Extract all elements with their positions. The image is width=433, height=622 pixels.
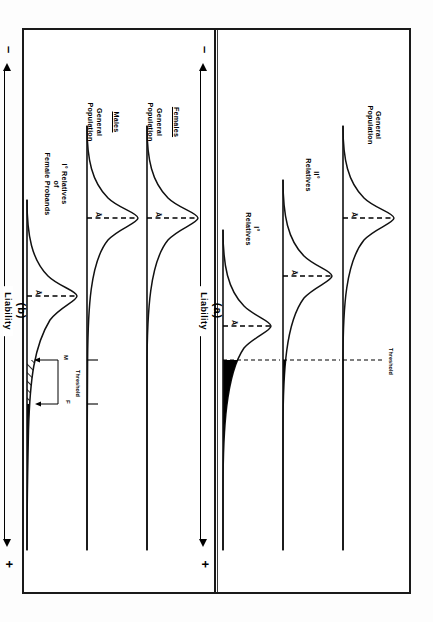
curve-label-text: General Population [146, 102, 163, 141]
panel-letter-a: (a) [212, 303, 224, 319]
curve-label-emphasis: Females [172, 107, 181, 137]
panel-a: Ā Threshold General Population Ā II° R [214, 30, 406, 592]
panel-b: Ā Females General Population [18, 30, 210, 592]
curve-label-first-degree-relatives-female-probands: I° Relatives of Female Probands [43, 126, 68, 242]
axis-end-plus: + [3, 560, 16, 568]
curve-label-males-general-population: Males General Population [86, 76, 128, 168]
curve-label-second-degree-relatives: II° Relatives [303, 134, 320, 216]
curve-label-emphasis: Males [112, 112, 121, 133]
curve-label-text: General Population [86, 102, 103, 141]
mean-marker: Ā [231, 320, 238, 325]
curve-label-females-general-population: Females General Population [146, 76, 188, 168]
male-threshold-marker: M [63, 355, 69, 360]
axis-arrow-right-icon [3, 539, 11, 547]
mean-marker: Ā [155, 212, 162, 217]
panel-letter-b: (b) [16, 302, 28, 319]
female-threshold-marker: F [65, 400, 71, 404]
axis-arrow-left-icon [3, 63, 11, 71]
distribution-second-degree-relatives: Ā II° Relatives [282, 30, 340, 592]
mean-marker: Ā [291, 270, 298, 275]
curve-label-general-population: General Population [365, 82, 382, 168]
axis-title: Liability [3, 286, 13, 336]
mean-marker: Ā [95, 212, 102, 217]
distribution-first-degree-relatives: Ā I° Relatives [222, 30, 280, 592]
threshold-label: Threshold [75, 370, 81, 397]
axis-end-minus: – [3, 46, 16, 53]
distribution-females-general-population: Ā Females General Population [146, 30, 204, 592]
mean-marker: Ā [35, 290, 42, 295]
distribution-first-degree-relatives-female-probands: Ā M F Threshold I° Relatives of Female P… [26, 30, 84, 592]
figure-root: Ā Threshold General Population Ā II° R [0, 0, 433, 622]
mean-marker: Ā [351, 212, 358, 217]
distribution-males-general-population: Ā Males General Population [86, 30, 144, 592]
curve-label-first-degree-relatives: I° Relatives [243, 188, 260, 270]
threshold-label: Threshold [388, 348, 394, 375]
distribution-general-population: Ā Threshold General Population [342, 30, 400, 592]
